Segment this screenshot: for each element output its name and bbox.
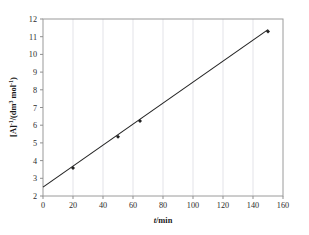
ytick-label-11: 11 [29,33,37,42]
ytick-label-9: 9 [33,68,37,77]
ytick-label-7: 7 [33,104,37,113]
xtick-label-140: 140 [247,201,259,210]
ytick-label-2: 2 [33,192,37,201]
y-axis-slash: /(dm [9,103,18,121]
chart-figure: 12 11 10 9 8 7 6 5 4 3 2 0 20 40 60 80 1… [0,0,309,235]
xtick-label-160: 160 [277,201,289,210]
ytick-label-5: 5 [33,139,37,148]
xtick-label-20: 20 [69,201,77,210]
xtick-label-120: 120 [217,201,229,210]
chart-plot: 12 11 10 9 8 7 6 5 4 3 2 0 20 40 60 80 1… [0,0,309,235]
y-axis-bracket: [A] [9,125,18,137]
xtick-label-100: 100 [187,201,199,210]
y-axis-title: [A]-1/(dm3 mol-1) [8,77,18,137]
ytick-label-4: 4 [33,157,37,166]
ytick-label-6: 6 [33,121,37,130]
ytick-label-10: 10 [29,50,37,59]
xtick-label-80: 80 [159,201,167,210]
ytick-label-12: 12 [29,15,37,24]
xtick-label-40: 40 [99,201,107,210]
xtick-label-0: 0 [41,201,45,210]
x-axis-unit: /min [155,216,173,225]
xtick-label-60: 60 [129,201,137,210]
y-axis-close-paren: ) [9,77,18,80]
x-axis-title: t/min [154,216,173,225]
ytick-label-3: 3 [33,174,37,183]
ytick-label-8: 8 [33,86,37,95]
y-axis-mol: mol [9,84,18,100]
